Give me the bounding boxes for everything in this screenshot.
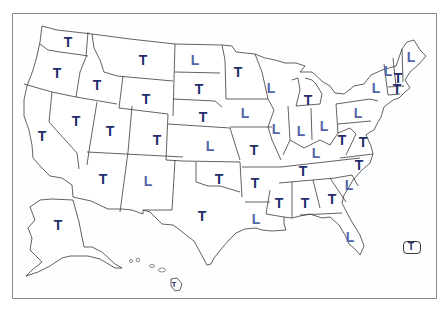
state-label-ma: T bbox=[393, 82, 402, 96]
state-label-sc: L bbox=[345, 178, 354, 192]
state-label-mi: T bbox=[304, 93, 313, 107]
alaska-outline bbox=[26, 199, 122, 276]
state-label-ia: L bbox=[241, 106, 250, 120]
state-label-nv: T bbox=[72, 114, 81, 128]
state-label-ut: T bbox=[106, 124, 115, 138]
state-label-il: L bbox=[272, 122, 281, 136]
state-label-mo: T bbox=[250, 143, 259, 157]
state-label-al: T bbox=[301, 196, 310, 210]
state-label-nd: L bbox=[191, 53, 200, 67]
state-label-hi: T bbox=[172, 281, 177, 289]
state-label-vt: L bbox=[384, 64, 393, 78]
state-label-wy: T bbox=[142, 92, 151, 106]
state-label-pa: L bbox=[354, 106, 363, 120]
state-label-mn: T bbox=[234, 65, 243, 79]
state-label-mt: T bbox=[139, 53, 148, 67]
state-label-fl: L bbox=[346, 230, 355, 244]
state-label-pr: T bbox=[408, 242, 414, 252]
state-label-wi: L bbox=[267, 81, 276, 95]
state-label-or: T bbox=[53, 66, 62, 80]
hawaii-island-maui bbox=[159, 268, 166, 272]
state-label-oh: L bbox=[320, 119, 329, 133]
state-label-ak: T bbox=[54, 218, 63, 232]
hawaii-island-kauai bbox=[130, 260, 133, 263]
state-label-in: L bbox=[297, 124, 306, 138]
hawaii-island-oahu bbox=[136, 258, 140, 262]
state-label-wv: T bbox=[338, 133, 347, 147]
state-label-ny: L bbox=[372, 81, 381, 95]
state-label-ne: T bbox=[199, 110, 208, 124]
state-label-ok: T bbox=[215, 172, 224, 186]
state-label-me: L bbox=[407, 50, 416, 64]
state-label-wa: T bbox=[64, 35, 73, 49]
state-label-ca: T bbox=[38, 129, 47, 143]
state-label-nc: T bbox=[355, 158, 364, 172]
state-label-ms: T bbox=[275, 196, 284, 210]
state-label-nm: L bbox=[144, 174, 153, 188]
hawaii-island-molokai bbox=[150, 265, 155, 268]
state-label-ks: L bbox=[206, 139, 215, 153]
state-label-id: T bbox=[93, 78, 102, 92]
state-label-sd: T bbox=[195, 82, 204, 96]
state-label-ky: L bbox=[312, 146, 321, 160]
state-label-va: T bbox=[359, 135, 368, 149]
state-label-az: T bbox=[99, 172, 108, 186]
state-label-tn: T bbox=[299, 164, 308, 178]
state-label-ga: T bbox=[328, 192, 337, 206]
state-label-co: T bbox=[153, 133, 162, 147]
state-label-ar: T bbox=[251, 176, 260, 190]
state-label-tx: T bbox=[198, 209, 207, 223]
state-label-la: L bbox=[252, 212, 261, 226]
